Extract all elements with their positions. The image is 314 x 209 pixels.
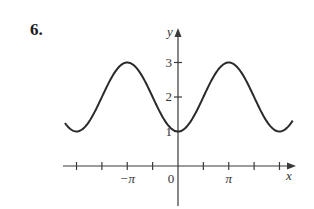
axis-labels: 123−π0πxy [120, 24, 292, 186]
y-tick-label: 2 [166, 89, 173, 104]
x-tick-label: 0 [168, 171, 175, 186]
axes [63, 28, 296, 206]
y-tick-label: 1 [166, 124, 173, 139]
y-axis-arrow-icon [175, 28, 182, 37]
x-tick-label: π [225, 171, 232, 186]
function-graph: 123−π0πxy [0, 0, 314, 209]
x-tick-label: −π [120, 171, 136, 186]
y-axis-label: y [165, 24, 173, 39]
x-axis-label: x [285, 168, 292, 183]
y-tick-label: 3 [166, 55, 173, 70]
